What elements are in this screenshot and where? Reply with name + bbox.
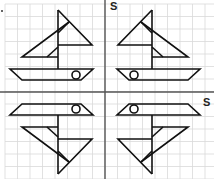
boat-bottom-left xyxy=(10,104,93,174)
figure-canvas xyxy=(0,0,214,179)
horizontal-axis-label: S xyxy=(203,97,210,108)
boat-top-right xyxy=(117,10,200,80)
boat-top-left xyxy=(10,10,93,80)
vertical-axis-label: S xyxy=(110,1,117,12)
symmetry-figure: S S xyxy=(0,0,214,179)
boat-bottom-right xyxy=(117,104,200,174)
corner-mark xyxy=(1,10,3,12)
